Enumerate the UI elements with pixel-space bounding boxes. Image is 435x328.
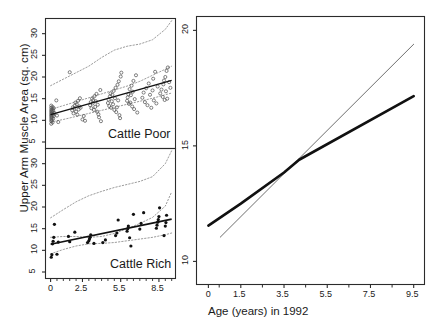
ytick-right-15: 15 — [180, 140, 190, 150]
ytick-top-25: 25 — [29, 49, 39, 59]
panel-label-cattle-rich: Cattle Rich — [110, 257, 171, 271]
xtick-right-9.5: 9.5 — [406, 289, 419, 299]
ytick-bot-20: 20 — [29, 201, 39, 211]
xtick-right-5.5: 5.5 — [319, 289, 332, 299]
xtick-left-2.5: 2.5 — [75, 283, 88, 293]
ytick-bot-25: 25 — [29, 179, 39, 189]
xtick-right-7.5: 7.5 — [363, 289, 376, 299]
ytick-bot-5: 5 — [27, 268, 37, 273]
ytick-top-30: 30 — [29, 28, 39, 38]
xtick-left-5.5: 5.5 — [113, 283, 126, 293]
panel-label-cattle-poor: Cattle Poor — [108, 127, 171, 141]
ytick-bot-15: 15 — [29, 223, 39, 233]
ytick-top-10: 10 — [29, 114, 39, 124]
figure-root: Upper Arm Muscle Area (sq. cm) Age (year… — [0, 0, 435, 328]
panel-comparison — [193, 17, 425, 289]
ytick-right-10: 10 — [180, 255, 190, 265]
ytick-top-5: 5 — [27, 138, 37, 143]
xtick-right-0: 0 — [206, 289, 211, 299]
xtick-left-0: 0 — [48, 283, 53, 293]
xtick-left-8.5: 8.5 — [151, 283, 164, 293]
xtick-right-3.5: 3.5 — [276, 289, 289, 299]
xtick-right-1.5: 1.5 — [233, 289, 246, 299]
ytick-bot-30: 30 — [29, 158, 39, 168]
ytick-right-20: 20 — [180, 24, 190, 34]
plot-canvas — [0, 0, 435, 328]
ytick-top-20: 20 — [29, 71, 39, 81]
ytick-bot-10: 10 — [29, 244, 39, 254]
ytick-top-15: 15 — [29, 93, 39, 103]
